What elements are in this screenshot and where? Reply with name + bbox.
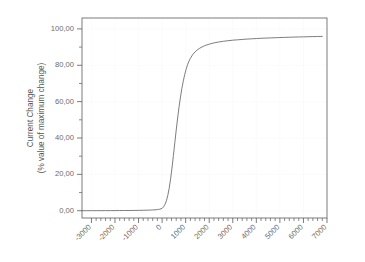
chart-figure: 0,0020,0040,0060,0080,00100,00 -3000-200… (0, 0, 365, 262)
y-tick-label: 60,00 (55, 97, 74, 106)
y-axis-title-line2: (% value of maximum change) (37, 62, 46, 173)
chart-background (0, 0, 365, 262)
line-chart-svg: 0,0020,0040,0060,0080,00100,00 -3000-200… (0, 0, 365, 262)
y-tick-label: 40,00 (55, 133, 74, 142)
y-tick-label: 80,00 (55, 60, 74, 69)
y-axis-title-line1: Current Change (26, 88, 35, 147)
y-tick-label: 0,00 (59, 206, 74, 215)
y-tick-label: 100,00 (51, 24, 74, 33)
y-tick-label: 20,00 (55, 169, 74, 178)
